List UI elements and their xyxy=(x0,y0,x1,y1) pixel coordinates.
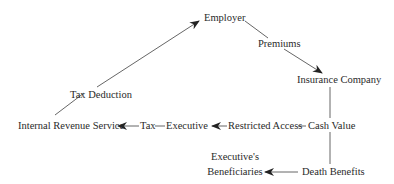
node-insurance-company: Insurance Company xyxy=(297,74,381,86)
label-tax-deduction: Tax Deduction xyxy=(70,89,132,101)
node-beneficiaries-line1: Executive's xyxy=(205,151,265,163)
node-cash-value: Cash Value xyxy=(308,120,355,132)
node-death-benefits: Death Benefits xyxy=(302,166,365,178)
node-beneficiaries-line2: Beneficiaries xyxy=(205,166,265,178)
label-restricted-access: Restricted Access xyxy=(228,120,302,132)
node-executive: Executive xyxy=(166,120,208,132)
edge-taxdeduction-to-employer xyxy=(97,21,199,87)
label-premiums: Premiums xyxy=(258,38,301,50)
edge-premiums-to-insurance xyxy=(284,49,322,73)
connector-lines xyxy=(0,0,394,184)
diagram-canvas: Employer Premiums Insurance Company Tax … xyxy=(0,0,394,184)
node-employer: Employer xyxy=(204,12,245,24)
edge-employer-to-premiums xyxy=(245,21,268,38)
node-irs: Internal Revenue Service xyxy=(18,120,124,132)
label-tax: Tax xyxy=(140,120,156,132)
